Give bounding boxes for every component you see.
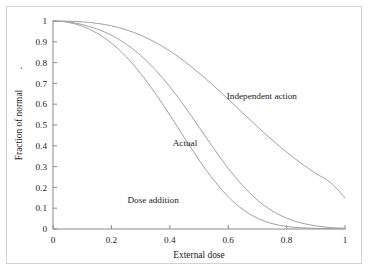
x-tick-label: 0.2 [106, 235, 118, 245]
y-axis-tick-labels: 00.10.20.30.40.50.60.70.80.91 [36, 16, 48, 234]
y-tick-label: 0.8 [36, 58, 48, 68]
x-tick-label: 0.4 [164, 235, 176, 245]
annotation-actual: Actual [173, 138, 198, 148]
annotation-dose-addition: Dose addition [127, 195, 179, 205]
chart-figure: 00.10.20.30.40.50.60.70.80.91 00.20.40.6… [0, 0, 368, 276]
y-tick-label: 0.5 [36, 120, 48, 130]
x-tick-label: 0 [51, 235, 56, 245]
y-tick-label: 0.2 [36, 183, 48, 193]
y-axis-title: Fraction of normal [14, 89, 24, 160]
x-axis-tick-labels: 00.20.40.60.81 [51, 235, 348, 245]
y-tick-label: 0.3 [36, 162, 48, 172]
y-tick-label: 1 [42, 16, 47, 26]
annotation-independent-action: Independent action [227, 91, 298, 101]
y-tick-label: 0.7 [36, 79, 48, 89]
y-tick-label: 0.6 [36, 99, 48, 109]
y-tick-label: 0.1 [36, 203, 48, 213]
y-axis-title-suffix: . [14, 67, 24, 69]
x-tick-label: 0.8 [281, 235, 293, 245]
line-chart: 00.10.20.30.40.50.60.70.80.91 00.20.40.6… [0, 0, 368, 276]
y-tick-label: 0.4 [36, 141, 48, 151]
plot-area-background [53, 21, 345, 229]
y-tick-label: 0 [42, 224, 47, 234]
x-axis-title: External dose [173, 250, 224, 260]
x-tick-label: 0.6 [222, 235, 234, 245]
x-tick-label: 1 [343, 235, 348, 245]
y-tick-label: 0.9 [36, 37, 48, 47]
